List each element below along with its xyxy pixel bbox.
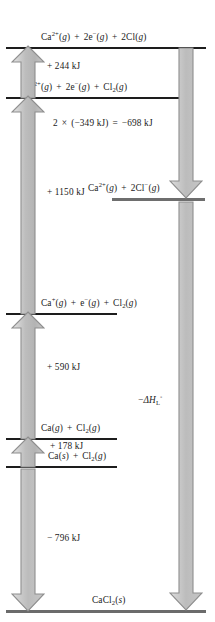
step-label-formation: − 796 kJ (47, 534, 80, 543)
step-label-second-ionization: + 244 kJ (47, 62, 80, 71)
level-label-1: Ca2+(g) + 2e−(g) + 2Cl(g) (41, 33, 146, 42)
arrow-first-ionization (11, 311, 45, 440)
arrow-second-ionization (11, 45, 45, 99)
step-label-sublimation: + 178 kJ (50, 442, 83, 451)
arrow-sublimation (11, 436, 45, 468)
level-label-3: Ca2+(g) + 2Cl−(g) (88, 184, 160, 193)
level-label-6: Ca(s) + Cl2(g) (48, 452, 106, 461)
arrow-electron-affinity (169, 47, 203, 199)
step-label-lattice-enthalpy: −ΔHL◦ (138, 396, 163, 405)
step-label-dissociation: + 1150 kJ (47, 188, 85, 197)
level-label-4: Ca+(g) + e−(g) + Cl2(g) (41, 299, 137, 308)
level-label-5: Ca(g) + Cl2(g) (41, 424, 100, 433)
level-label-7: CaCl2(s) (92, 596, 125, 605)
step-label-electron-affinity: 2 × (−349 kJ) = −698 kJ (53, 119, 153, 128)
step-label-first-ionization: + 590 kJ (47, 363, 80, 372)
born-haber-diagram: Ca2+(g) + 2e−(g) + 2Cl(g) Ca2+(g) + 2e−(… (0, 0, 215, 622)
arrow-lattice-enthalpy (169, 201, 203, 611)
arrow-formation-enthalpy (11, 468, 45, 612)
arrow-dissociation (11, 95, 45, 315)
